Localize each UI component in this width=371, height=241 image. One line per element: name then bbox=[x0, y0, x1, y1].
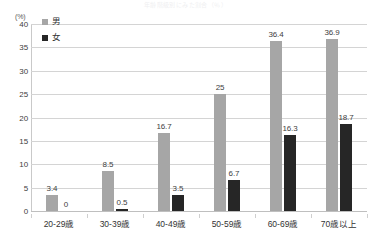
bar-value-label: 0.5 bbox=[109, 198, 135, 207]
x-axis-tick: 50-59歳 bbox=[199, 217, 255, 229]
bar-female[interactable] bbox=[172, 195, 184, 211]
bar-value-label: 16.3 bbox=[277, 124, 303, 133]
bar-female[interactable] bbox=[340, 124, 352, 211]
bar-female[interactable] bbox=[228, 180, 240, 211]
y-axis-tick-labels: 0510152025303540 bbox=[0, 24, 28, 211]
bar-group: 36.918.7 bbox=[311, 24, 367, 211]
bar-group: 8.50.5 bbox=[87, 24, 143, 211]
y-axis-tick: 40 bbox=[2, 20, 28, 29]
legend-label-male: 男 bbox=[52, 17, 61, 26]
bar-female[interactable] bbox=[284, 135, 296, 211]
legend-swatch-male-icon bbox=[42, 19, 48, 25]
bar-group: 256.7 bbox=[199, 24, 255, 211]
x-axis-separator bbox=[143, 214, 144, 218]
bar-group: 16.73.5 bbox=[143, 24, 199, 211]
x-axis-tick: 60-69歳 bbox=[255, 217, 311, 229]
bar-group: 36.416.3 bbox=[255, 24, 311, 211]
gridline bbox=[31, 211, 367, 212]
bar-value-label: 36.4 bbox=[263, 30, 289, 39]
bar-value-label: 6.7 bbox=[221, 169, 247, 178]
x-axis-separator bbox=[255, 214, 256, 218]
y-axis-tick: 10 bbox=[2, 160, 28, 169]
bar-value-label: 0 bbox=[53, 200, 79, 209]
y-axis-tick: 0 bbox=[2, 207, 28, 216]
bar-value-label: 16.7 bbox=[151, 122, 177, 131]
bar-male[interactable] bbox=[158, 133, 170, 211]
x-axis-separator bbox=[87, 214, 88, 218]
bar-male[interactable] bbox=[326, 39, 338, 212]
bar-female[interactable] bbox=[116, 209, 128, 211]
bar-value-label: 36.9 bbox=[319, 28, 345, 37]
y-axis-tick: 30 bbox=[2, 66, 28, 75]
x-axis-tick: 30-39歳 bbox=[87, 217, 143, 229]
legend-item-female[interactable]: 女 bbox=[42, 32, 86, 43]
x-axis-tick: 70歳以上 bbox=[311, 217, 367, 229]
bar-value-label: 18.7 bbox=[333, 113, 359, 122]
legend-label-female: 女 bbox=[52, 33, 61, 42]
bar-group: 3.40 bbox=[31, 24, 87, 211]
bar-value-label: 8.5 bbox=[95, 160, 121, 169]
bar-value-label: 3.5 bbox=[165, 184, 191, 193]
legend-item-male[interactable]: 男 bbox=[42, 16, 86, 27]
x-axis-tick-labels: 20-29歳30-39歳40-49歳50-59歳60-69歳70歳以上 bbox=[31, 214, 367, 236]
y-axis-tick: 15 bbox=[2, 136, 28, 145]
y-axis-tick: 25 bbox=[2, 90, 28, 99]
x-axis-separator bbox=[31, 214, 32, 218]
x-axis-separator bbox=[311, 214, 312, 218]
bar-chart: 年齢階級別にみた割合（％） (%) 0510152025303540 3.408… bbox=[0, 0, 371, 241]
plot-area: 3.408.50.516.73.5256.736.416.336.918.7 bbox=[31, 24, 367, 211]
x-axis-separator bbox=[199, 214, 200, 218]
chart-title: 年齢階級別にみた割合（％） bbox=[0, 0, 371, 11]
y-axis-tick: 5 bbox=[2, 183, 28, 192]
chart-legend: 男 女 bbox=[42, 16, 86, 48]
legend-swatch-female-icon bbox=[42, 35, 48, 41]
y-axis-tick: 20 bbox=[2, 113, 28, 122]
bar-value-label: 3.4 bbox=[39, 184, 65, 193]
y-axis-tick: 35 bbox=[2, 43, 28, 52]
bar-value-label: 25 bbox=[207, 83, 233, 92]
x-axis-tick: 40-49歳 bbox=[143, 217, 199, 229]
x-axis-tick: 20-29歳 bbox=[31, 217, 87, 229]
x-axis-separator bbox=[367, 214, 368, 218]
bar-male[interactable] bbox=[214, 94, 226, 211]
